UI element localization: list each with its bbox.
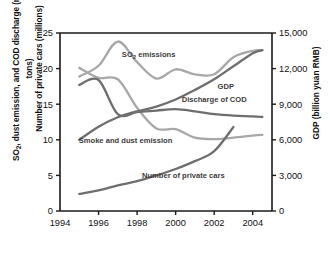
y-axis-right-tick-label: 6,000 xyxy=(279,135,302,145)
y-axis-left-tick-label: 10 xyxy=(43,135,53,145)
chart-figure: SO2, dust emission, and COD discharge (m… xyxy=(0,0,330,255)
y-axis-right-ticks: 03,0006,0009,00012,00015,000 xyxy=(272,28,307,216)
y-axis-left-tick-label: 25 xyxy=(43,28,53,38)
series-label: SO2 emissions xyxy=(122,50,176,60)
y-axis-left-tick-label: 15 xyxy=(43,100,53,110)
chart-plot-area: 0510152025 03,0006,0009,00012,00015,000 … xyxy=(0,0,330,255)
series-label: Number of private cars xyxy=(142,171,225,180)
x-axis-tick-label: 1996 xyxy=(88,218,109,228)
series-line xyxy=(79,42,262,79)
x-axis-tick-label: 2000 xyxy=(165,218,186,228)
x-axis-tick-label: 1998 xyxy=(127,218,148,228)
y-axis-left-tick-label: 0 xyxy=(48,206,53,216)
x-axis-tick-label: 2002 xyxy=(204,218,225,228)
series-label: GDP xyxy=(218,82,234,91)
y-axis-left-tick-label: 5 xyxy=(48,171,53,181)
x-axis-tick-label: 1994 xyxy=(50,218,71,228)
y-axis-left-ticks: 0510152025 xyxy=(43,28,60,216)
y-axis-left-tick-label: 20 xyxy=(43,64,53,74)
axis-lines xyxy=(60,33,272,211)
y-axis-right-tick-label: 12,000 xyxy=(279,64,307,74)
y-axis-right-tick-label: 15,000 xyxy=(279,28,307,38)
y-axis-right-tick-label: 0 xyxy=(279,206,284,216)
y-axis-right-tick-label: 3,000 xyxy=(279,171,302,181)
series-label: Smoke and dust emission xyxy=(79,136,173,145)
series-label: Discharge of COD xyxy=(182,95,247,104)
x-axis-ticks: 199419961998200020022004 xyxy=(50,211,263,228)
x-axis-tick-label: 2004 xyxy=(242,218,263,228)
y-axis-right-tick-label: 9,000 xyxy=(279,100,302,110)
